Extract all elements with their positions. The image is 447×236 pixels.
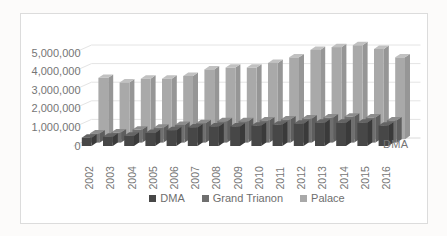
legend-item-label: DMA xyxy=(160,192,184,204)
y-axis-tick-label: 5,000,000 xyxy=(32,47,81,59)
category-tick-label: 2006 xyxy=(168,166,180,190)
category-tick-label: 2010 xyxy=(253,166,265,190)
legend-item-label: Grand Trianon xyxy=(213,192,283,204)
category-tick-label: 2014 xyxy=(338,166,350,190)
bar-dma-2013-side xyxy=(325,119,330,146)
bar-palace-2002-side xyxy=(108,74,113,139)
category-tick-label: 2003 xyxy=(104,166,116,190)
category-tick-label: 2015 xyxy=(359,166,371,190)
y-axis-tick-label: 3,000,000 xyxy=(32,84,81,96)
legend-swatch xyxy=(300,195,307,202)
bar-dma-2006 xyxy=(167,130,177,146)
bar-dma-2014-side xyxy=(346,119,351,146)
legend-swatch xyxy=(149,195,156,202)
legend-item-label: Palace xyxy=(311,192,345,204)
category-tick-label: 2008 xyxy=(210,166,222,190)
bar-dma-2015-side xyxy=(367,119,372,146)
bar-palace-2016-side xyxy=(405,54,410,139)
bar-dma-2008-side xyxy=(219,123,224,146)
bar-dma-2005 xyxy=(145,133,155,146)
y-axis-tick-label: 0 xyxy=(74,140,80,152)
bar-dma-2010 xyxy=(251,126,261,146)
legend-item-grand-trianon: Grand Trianon xyxy=(202,192,283,204)
bar-dma-2015 xyxy=(357,123,367,146)
bar-dma-2014 xyxy=(336,123,346,146)
category-tick-label: 2016 xyxy=(380,166,392,190)
bar-dma-2007 xyxy=(188,127,198,146)
series-axis-label: DMA xyxy=(383,138,408,150)
category-tick-label: 2005 xyxy=(147,166,159,190)
bar-dma-2002 xyxy=(82,138,92,146)
category-tick-label: 2004 xyxy=(126,166,138,190)
y-axis-tick-label: 2,000,000 xyxy=(32,102,81,114)
legend-item-dma: DMA xyxy=(149,192,184,204)
bar-dma-2011-side xyxy=(282,121,287,146)
legend-item-palace: Palace xyxy=(300,192,345,204)
category-tick-label: 2009 xyxy=(232,166,244,190)
legend-swatch xyxy=(202,195,209,202)
bar-dma-2013 xyxy=(315,123,325,146)
chart-canvas: 01,000,0002,000,0003,000,0004,000,0005,0… xyxy=(0,0,447,236)
bar-dma-2003 xyxy=(103,137,113,146)
bar-dma-2010-side xyxy=(261,122,266,146)
category-tick-label: 2007 xyxy=(189,166,201,190)
bar-dma-2004 xyxy=(124,136,134,146)
bar-dma-2008 xyxy=(209,126,219,146)
bar-dma-2007-side xyxy=(198,124,203,146)
bar-dma-2011 xyxy=(273,125,283,146)
y-axis-tick-label: 4,000,000 xyxy=(32,65,81,77)
category-tick-label: 2012 xyxy=(295,166,307,190)
y-axis-tick-label: 1,000,000 xyxy=(32,121,81,133)
category-tick-label: 2011 xyxy=(274,167,286,190)
bar-dma-2009-side xyxy=(240,123,245,146)
category-tick-label: 2013 xyxy=(316,166,328,190)
bar-dma-2012-side xyxy=(304,120,309,146)
bar-dma-2012 xyxy=(294,124,304,146)
category-tick-label: 2002 xyxy=(83,166,95,190)
legend: DMAGrand TrianonPalace xyxy=(73,192,421,204)
bar-dma-2009 xyxy=(230,126,240,146)
